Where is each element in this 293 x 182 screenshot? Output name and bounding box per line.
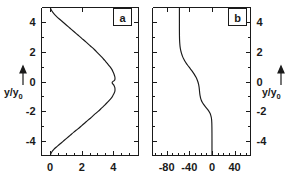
y-tick-label: 2 [257, 46, 263, 58]
panel-b-curve [179, 8, 212, 155]
y-tick-label: -4 [26, 135, 37, 147]
panel-a-y-ticklabels: 420-2-4 [26, 16, 37, 146]
panel-b: 420-2-4 -80-40040 b [153, 8, 268, 173]
left-axis-title-group: y/y0 [4, 66, 26, 101]
y-tick-label: -4 [257, 135, 268, 147]
x-tick-label: -80 [159, 161, 175, 173]
panel-b-label-group: b [229, 9, 247, 26]
panel-b-y-ticks [153, 23, 251, 142]
panel-b-frame [153, 8, 251, 156]
x-tick-label: 0 [47, 161, 53, 173]
x-tick-label: 0 [209, 161, 215, 173]
left-axis-title: y/y0 [4, 86, 23, 101]
x-tick-label: 40 [229, 161, 241, 173]
y-tick-label: 2 [29, 46, 35, 58]
right-up-arrow-icon [278, 66, 284, 85]
panel-a-x-ticks [51, 8, 130, 156]
y-tick-label: 4 [29, 16, 36, 28]
figure-container: 420-2-4 024 a 420-2-4 -80-40040 b [0, 0, 293, 182]
y-tick-label: 4 [257, 16, 264, 28]
left-up-arrow-icon [20, 66, 26, 85]
panel-b-x-ticks [156, 8, 247, 156]
panel-a-y-ticks [42, 23, 139, 142]
panel-b-x-ticklabels: -80-40040 [159, 161, 241, 173]
y-tick-label: -2 [26, 105, 36, 117]
panel-a-label-group: a [114, 9, 132, 26]
panel-b-label: b [234, 12, 241, 24]
y-tick-label: -2 [257, 105, 267, 117]
panel-a: 420-2-4 024 a [26, 8, 139, 173]
panel-a-curve [50, 8, 115, 155]
x-tick-label: -40 [181, 161, 197, 173]
right-axis-title-group: y/y0 [262, 66, 284, 101]
panel-b-y-ticklabels: 420-2-4 [257, 16, 268, 146]
panel-a-frame [42, 8, 139, 156]
y-tick-label: 0 [29, 76, 35, 88]
x-tick-label: 2 [79, 161, 85, 173]
right-axis-title: y/y0 [262, 86, 281, 101]
panel-a-label: a [119, 12, 126, 24]
plot-svg: 420-2-4 024 a 420-2-4 -80-40040 b [0, 0, 293, 182]
x-tick-label: 4 [110, 161, 117, 173]
panel-a-x-ticklabels: 024 [47, 161, 117, 173]
